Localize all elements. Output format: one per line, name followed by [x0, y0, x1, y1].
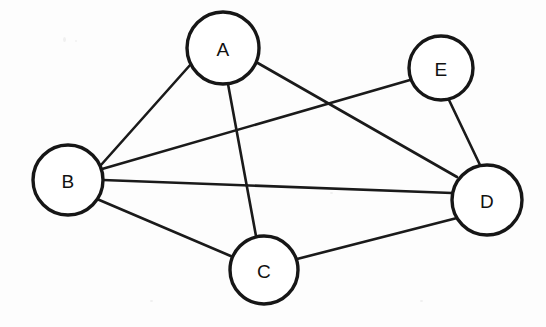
node-e[interactable]: E [409, 36, 473, 100]
edge-a-b[interactable] [101, 64, 191, 165]
edge-b-d[interactable] [103, 180, 452, 193]
edge-e-d[interactable] [449, 100, 480, 165]
node-a-label: A [217, 39, 230, 60]
graph-svg: A B C D E [0, 0, 546, 327]
graph-diagram-canvas: A B C D E [0, 0, 546, 327]
node-a[interactable]: A [187, 12, 259, 84]
node-b-label: B [62, 171, 75, 192]
edge-a-c[interactable] [228, 84, 256, 236]
node-c[interactable]: C [230, 236, 298, 304]
edge-c-d[interactable] [297, 218, 457, 259]
node-d[interactable]: D [452, 165, 522, 235]
node-b[interactable]: B [33, 145, 103, 215]
edge-b-c[interactable] [97, 199, 233, 257]
node-e-label: E [435, 59, 448, 80]
node-d-label: D [480, 191, 494, 212]
node-c-label: C [257, 261, 271, 282]
